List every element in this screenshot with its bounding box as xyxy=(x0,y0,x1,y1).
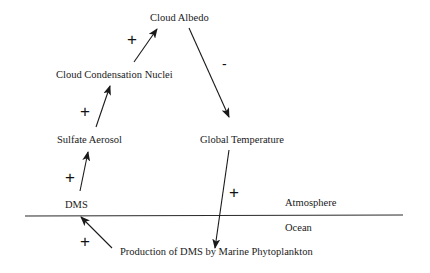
node-sulfate-aerosol: Sulfate Aerosol xyxy=(57,134,122,146)
node-global-temperature: Global Temperature xyxy=(200,134,284,146)
sign-ccn-to-albedo: + xyxy=(127,31,137,48)
node-dms: DMS xyxy=(65,199,88,211)
dms-feedback-diagram: Cloud Albedo Cloud Condensation Nuclei S… xyxy=(0,0,430,273)
node-cloud-condensation-nuclei: Cloud Condensation Nuclei xyxy=(56,69,173,81)
sign-sa-to-ccn: + xyxy=(80,103,90,120)
region-atmosphere: Atmosphere xyxy=(285,197,336,209)
sign-dms-to-sa: + xyxy=(65,169,75,186)
arrow-ccn-to-cloud-albedo xyxy=(134,29,157,62)
sign-temp-to-production: + xyxy=(229,184,239,201)
arrow-global-temperature-to-production xyxy=(215,150,229,248)
region-ocean: Ocean xyxy=(285,222,312,234)
arrow-sulfate-aerosol-to-ccn xyxy=(96,86,110,127)
atmosphere-ocean-boundary xyxy=(25,215,403,216)
node-production-of-dms: Production of DMS by Marine Phytoplankto… xyxy=(120,246,313,258)
sign-albedo-to-temp: - xyxy=(222,56,227,73)
arrow-dms-to-sulfate-aerosol xyxy=(80,152,88,191)
node-cloud-albedo: Cloud Albedo xyxy=(150,12,209,24)
sign-production-to-dms: + xyxy=(80,233,90,250)
